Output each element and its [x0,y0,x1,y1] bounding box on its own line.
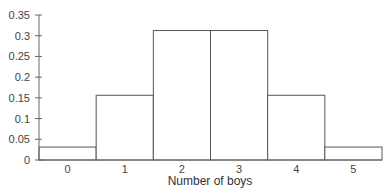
x-tick-label: 4 [293,163,299,175]
bars-group [39,31,382,160]
y-ticks: 00.050.10.150.20.250.30.35 [9,9,42,166]
x-tick-label: 0 [65,163,71,175]
y-tick-label: 0.1 [15,113,30,125]
y-tick-label: 0.3 [15,30,30,42]
y-tick-label: 0 [24,154,30,166]
y-tick-label: 0.2 [15,71,30,83]
x-tick-label: 5 [350,163,356,175]
bar-1 [96,95,153,160]
bar-2 [153,31,210,160]
bar-4 [268,95,325,160]
bar-5 [325,147,382,160]
bar-0 [39,147,96,160]
y-tick-label: 0.05 [9,133,30,145]
histogram-chart: 00.050.10.150.20.250.30.35 012345 Number… [0,0,387,191]
y-tick-label: 0.35 [9,9,30,21]
y-tick-label: 0.25 [9,50,30,62]
bar-3 [211,31,268,160]
x-tick-label: 1 [122,163,128,175]
x-axis-title: Number of boys [168,174,253,188]
y-tick-label: 0.15 [9,92,30,104]
